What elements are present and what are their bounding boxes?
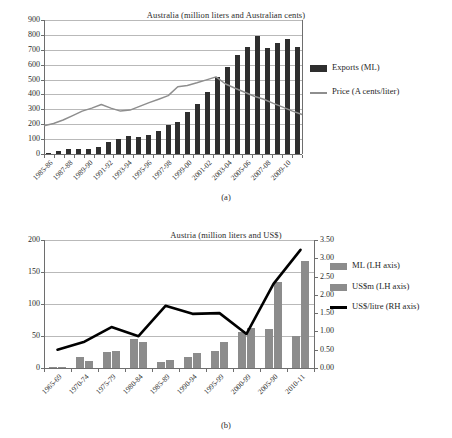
legend-item-price[interactable]: Price (A cents/liter): [310, 86, 399, 97]
legend-bar-swatch-icon: [310, 65, 327, 72]
legend-line-swatch-icon: [330, 306, 347, 309]
legend-label-usdm: US$m (LH axis): [352, 281, 409, 292]
figure-panel-b: Austria (million liters and US$) 0501001…: [0, 218, 452, 438]
panel-b-caption: (b): [0, 420, 452, 430]
figure-panel-a: Australia (million liters and Australian…: [0, 0, 452, 210]
legend-item-usd-per-litre[interactable]: US$/litre (RH axis): [330, 301, 419, 312]
legend-label-exports: Exports (ML): [332, 62, 380, 73]
legend-item-ml[interactable]: ML (LH axis): [330, 260, 419, 271]
legend-label-usd-per-litre: US$/litre (RH axis): [352, 301, 419, 312]
price-line-path: [44, 77, 302, 126]
usd-per-litre-line-path: [58, 250, 301, 350]
legend-label-ml: ML (LH axis): [352, 260, 400, 271]
legend-label-price: Price (A cents/liter): [332, 86, 399, 97]
legend-australia: Exports (ML) Price (A cents/liter): [310, 62, 399, 100]
legend-line-swatch-icon: [310, 92, 327, 94]
plot-area-austria: 0501001502000.000.501.001.502.002.503.00…: [0, 218, 452, 438]
legend-austria: ML (LH axis) US$m (LH axis) US$/litre (R…: [330, 260, 419, 316]
legend-bar-swatch-icon: [330, 284, 347, 291]
panel-a-caption: (a): [0, 192, 452, 202]
legend-bar-swatch-icon: [330, 263, 347, 270]
plot-area-australia: 01002003004005006007008009001985-861987-…: [0, 0, 452, 210]
legend-item-exports[interactable]: Exports (ML): [310, 62, 399, 73]
legend-item-usdm[interactable]: US$m (LH axis): [330, 281, 419, 292]
